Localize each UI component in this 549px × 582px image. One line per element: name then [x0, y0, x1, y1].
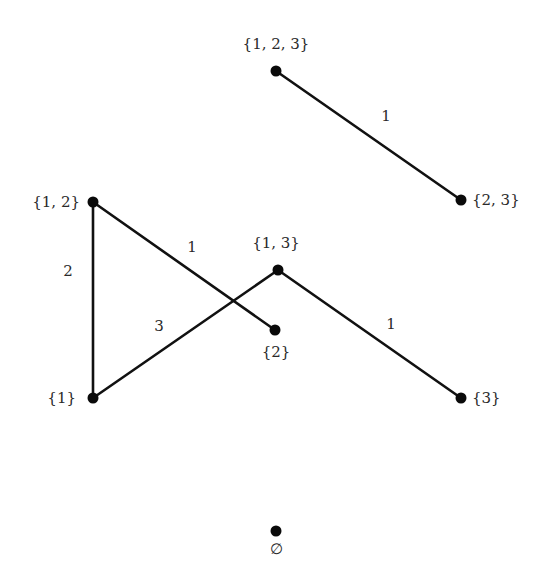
- edge-weight-label: 2: [63, 262, 73, 280]
- edge-weight-label: 1: [187, 238, 197, 256]
- vertex-n2: [270, 325, 281, 336]
- edge-n123-n23: [276, 71, 461, 200]
- edge-weight-label: 1: [381, 107, 391, 125]
- vertex-n23: [456, 195, 467, 206]
- vertex-label-n23: {2, 3}: [472, 191, 520, 209]
- node-labels-group: {1, 2, 3}{2, 3}{1, 2}{1, 3}{2}{1}{3}∅: [32, 35, 519, 558]
- edge-weight-label: 3: [154, 317, 164, 335]
- vertex-nempty: [271, 526, 282, 537]
- vertex-label-n1: {1}: [47, 389, 76, 407]
- vertex-label-n3: {3}: [472, 389, 501, 407]
- vertex-n12: [88, 197, 99, 208]
- vertex-label-n2: {2}: [262, 343, 291, 361]
- vertex-label-n123: {1, 2, 3}: [243, 35, 310, 53]
- vertex-n1: [88, 393, 99, 404]
- vertex-label-n13: {1, 3}: [252, 234, 300, 252]
- vertex-label-nempty: ∅: [270, 540, 283, 558]
- vertex-n3: [456, 393, 467, 404]
- edge-n12-n2: [93, 202, 275, 330]
- edge-weight-label: 1: [386, 315, 396, 333]
- edge-n1-n13: [93, 270, 278, 398]
- edge-labels-group: 11231: [63, 107, 396, 335]
- vertex-n13: [273, 265, 284, 276]
- vertex-label-n12: {1, 2}: [32, 193, 80, 211]
- vertex-n123: [271, 66, 282, 77]
- subset-graph-diagram: 11231 {1, 2, 3}{2, 3}{1, 2}{1, 3}{2}{1}{…: [0, 0, 549, 582]
- vertices-group: [88, 66, 467, 537]
- edge-n13-n3: [278, 270, 461, 398]
